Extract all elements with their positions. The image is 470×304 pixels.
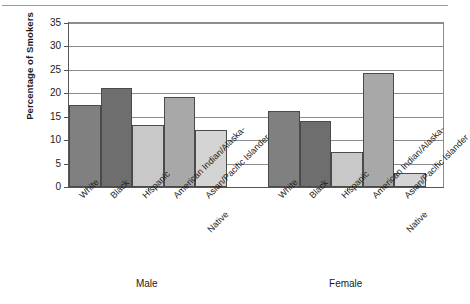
bar-male-1 [101,88,133,187]
y-tick-mark [64,70,69,71]
group-label-male: Male [107,279,187,289]
bar-male-0 [69,105,101,187]
y-tick-label: 25 [50,65,61,75]
gridline [69,23,443,24]
y-tick-mark [64,187,69,188]
y-tick-label: 35 [50,18,61,28]
category-label: Native [405,210,429,234]
y-tick-label: 15 [50,112,61,122]
y-tick-label: 0 [55,182,61,192]
y-tick-label: 10 [50,135,61,145]
y-tick-label: 20 [50,88,61,98]
y-tick-label: 30 [50,41,61,51]
page-top-rule [2,5,448,6]
y-tick-label: 5 [55,159,61,169]
gridline [69,46,443,47]
gridline [69,70,443,71]
bar-female-0 [268,111,300,187]
group-label-female: Female [306,279,386,289]
y-axis-title: Percentage of Smokers [22,0,38,141]
plot-area: 05101520253035 [68,22,444,188]
category-label: Native [206,210,230,234]
bar-female-3 [363,73,395,187]
y-tick-mark [64,46,69,47]
y-tick-mark [64,23,69,24]
bar-female-1 [300,121,332,187]
y-tick-mark [64,93,69,94]
